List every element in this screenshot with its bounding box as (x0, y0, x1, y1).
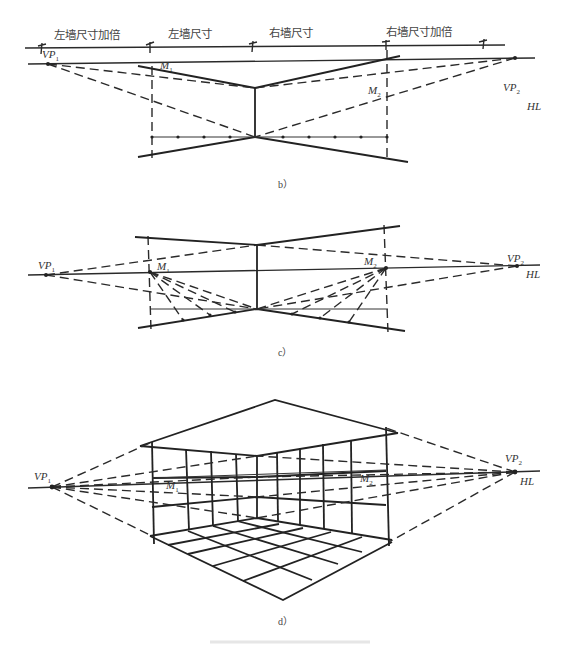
left-wall-edge (152, 442, 154, 544)
right-wall-edge (386, 427, 389, 546)
right-measure-vertical (384, 225, 388, 333)
vp1-label: VP1 (34, 470, 51, 485)
caption-d: d） (278, 616, 293, 627)
vp1-point (44, 273, 48, 277)
wall-top-line (135, 226, 400, 245)
right-wall-grid-verticals (277, 440, 352, 534)
vp1-label: VP1 (42, 48, 59, 63)
dimension-line (25, 45, 505, 48)
vp1-label: VP1 (38, 259, 55, 274)
vp1-rays (52, 442, 257, 536)
label-right-wall-double: 右墙尺寸加倍 (386, 25, 453, 39)
vp1-point (50, 485, 55, 490)
panel-b: 左墙尺寸加倍 左墙尺寸 右墙尺寸 右墙尺寸加倍 VP1 M1 M2 VP2 HL… (25, 25, 541, 190)
horizon-line (28, 58, 535, 64)
caption-c: c） (278, 347, 292, 358)
vp2-bottom-ray (255, 58, 515, 137)
m1-measure-rays (150, 272, 257, 320)
vp1-point (46, 62, 50, 66)
vp2-top-ray (255, 58, 515, 88)
measure-points (148, 266, 388, 324)
wall-top-line (140, 433, 398, 456)
vp2-point (513, 56, 517, 60)
m2-label: M2 (367, 84, 381, 99)
vp2-label: VP2 (505, 452, 522, 467)
left-measure-vertical (148, 236, 151, 330)
hl-label: HL (525, 268, 540, 280)
label-left-wall-double: 左墙尺寸加倍 (54, 28, 121, 42)
panel-c: VP1 M1 M2 VP2 HL c） (28, 225, 540, 358)
vp2-label: VP2 (503, 81, 520, 96)
vp2-point (515, 264, 519, 268)
vp2-point (513, 470, 518, 475)
hl-label: HL (526, 100, 541, 112)
perspective-diagram: 左墙尺寸加倍 左墙尺寸 右墙尺寸 右墙尺寸加倍 VP1 M1 M2 VP2 HL… (0, 0, 564, 648)
caption-b: b） (278, 179, 293, 190)
m2-measure-rays (257, 268, 386, 322)
hl-label: HL (519, 475, 534, 487)
panel-d: VP1 M1 M2 VP2 HL d） (28, 400, 540, 627)
label-left-wall: 左墙尺寸 (168, 27, 212, 41)
label-right-wall: 右墙尺寸 (269, 26, 313, 40)
wall-bottom-line (138, 137, 408, 162)
floor-outline (150, 536, 392, 600)
m1-label: M1 (165, 479, 179, 494)
vp1-bottom-ray (46, 275, 257, 309)
vp2-top-ray (257, 245, 517, 266)
left-wall-grid-verticals (186, 449, 238, 530)
